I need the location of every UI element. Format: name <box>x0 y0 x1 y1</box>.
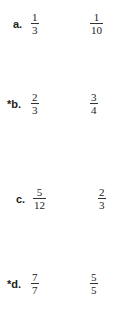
denominator: 12 <box>33 200 46 210</box>
fraction-first: 7 7 <box>31 272 39 295</box>
problem-label: a. <box>13 18 22 30</box>
fraction-first: 5 12 <box>33 187 46 210</box>
problem-b: *b. 2 3 3 4 <box>0 90 133 120</box>
fraction-second: 1 10 <box>90 12 103 35</box>
denominator: 7 <box>31 285 39 295</box>
problem-a: a. 1 3 1 10 <box>0 10 133 40</box>
denominator: 3 <box>31 105 39 115</box>
denominator: 3 <box>98 200 106 210</box>
numerator: 7 <box>31 272 39 282</box>
denominator: 5 <box>90 285 98 295</box>
fraction-second: 2 3 <box>98 187 106 210</box>
numerator: 3 <box>90 92 98 102</box>
problem-label: *b. <box>7 98 21 110</box>
fraction-first: 2 3 <box>31 92 39 115</box>
denominator: 10 <box>90 25 103 35</box>
numerator: 2 <box>31 92 39 102</box>
problem-label: c. <box>16 193 25 205</box>
fraction-second: 3 4 <box>90 92 98 115</box>
denominator: 4 <box>90 105 98 115</box>
numerator: 1 <box>31 12 39 22</box>
denominator: 3 <box>31 25 39 35</box>
problem-c: c. 5 12 2 3 <box>0 185 133 215</box>
fraction-first: 1 3 <box>31 12 39 35</box>
problem-label: *d. <box>7 278 21 290</box>
numerator: 5 <box>90 272 98 282</box>
numerator: 2 <box>98 187 106 197</box>
problem-d: *d. 7 7 5 5 <box>0 270 133 300</box>
numerator: 5 <box>36 187 44 197</box>
numerator: 1 <box>93 12 101 22</box>
fraction-second: 5 5 <box>90 272 98 295</box>
